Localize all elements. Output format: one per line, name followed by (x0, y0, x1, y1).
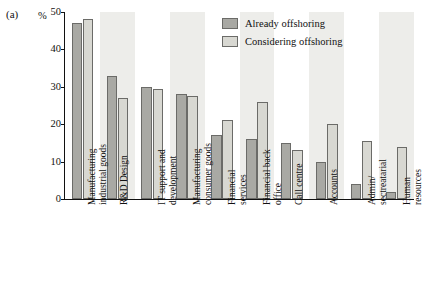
x-axis-tick-label: Admin/ sectreatarial (367, 159, 388, 205)
legend-swatch-considering-offshoring (222, 36, 238, 47)
panel-label: (a) (6, 8, 18, 20)
y-axis-tick-label: 40 (43, 44, 61, 55)
x-axis-tick-label: R&D Design (119, 155, 130, 205)
bar (141, 87, 151, 199)
y-axis-tick-label: 10 (43, 156, 61, 167)
y-axis-tick-label: 20 (43, 119, 61, 130)
legend-label-already-offshoring: Already offshoring (245, 18, 325, 29)
bar (351, 184, 361, 199)
x-axis-tick-label: Manufacturing consumer goods (192, 143, 213, 205)
legend-label-considering-offshoring: Considering offshoring (245, 36, 343, 47)
x-axis-tick-label: Financial back office (262, 149, 283, 205)
bar (107, 76, 117, 199)
y-axis-tick-label: 0 (43, 194, 61, 205)
legend-item-considering-offshoring: Considering offshoring (222, 36, 343, 47)
bar (72, 23, 82, 199)
figure: (a) % 01020304050 Already offshoring Con… (0, 0, 438, 288)
x-axis-tick-label: Financial services (227, 170, 248, 205)
x-axis-tick-label: Call centre (294, 164, 305, 205)
chart-legend: Already offshoring Considering offshorin… (222, 18, 343, 54)
x-axis-tick-label: Accounts (329, 169, 340, 205)
y-axis-tick-label: 50 (43, 7, 61, 18)
legend-item-already-offshoring: Already offshoring (222, 18, 343, 29)
legend-swatch-already-offshoring (222, 18, 238, 29)
x-axis-tick-label: Human resources (402, 169, 423, 205)
bar (316, 162, 326, 199)
y-axis-tick-label: 30 (43, 82, 61, 93)
x-axis-tick-label: IT support and development (157, 149, 178, 205)
y-axis-tick-mark (61, 199, 65, 200)
x-axis-tick-label: Manufacturing industrial goods (87, 144, 108, 205)
